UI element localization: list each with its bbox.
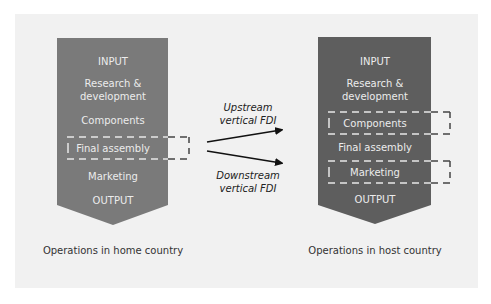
fdi-arrows: Upstream vertical FDI Downstream vertica… <box>207 102 281 194</box>
home-stage-marketing: Marketing <box>88 171 138 182</box>
home-stage-input: INPUT <box>98 56 129 67</box>
upstream-label-1: Upstream <box>224 102 273 113</box>
downstream-arrow <box>207 151 281 163</box>
host-country-value-chain: INPUT Research & development Components … <box>308 37 450 256</box>
downstream-label-1: Downstream <box>216 170 280 181</box>
host-stage-rd-2: development <box>342 91 408 102</box>
host-stage-output: OUTPUT <box>355 194 397 205</box>
upstream-arrow <box>207 130 281 142</box>
host-stage-input: INPUT <box>360 56 391 67</box>
home-caption: Operations in home country <box>43 245 183 256</box>
home-stage-rd-1: Research & <box>85 78 142 89</box>
host-stage-marketing: Marketing <box>350 167 400 178</box>
upstream-label-2: vertical FDI <box>220 115 277 126</box>
host-stage-components: Components <box>343 118 406 129</box>
host-stage-final-assembly: Final assembly <box>338 142 412 153</box>
host-stage-rd-1: Research & <box>347 78 404 89</box>
home-stage-components: Components <box>81 115 144 126</box>
downstream-label-2: vertical FDI <box>220 183 277 194</box>
vertical-fdi-diagram: INPUT Research & development Components … <box>0 0 491 304</box>
home-stage-final-assembly: Final assembly <box>76 143 150 154</box>
home-stage-output: OUTPUT <box>93 195 135 206</box>
home-stage-rd-2: development <box>80 91 146 102</box>
host-caption: Operations in host country <box>308 245 442 256</box>
home-country-value-chain: INPUT Research & development Components … <box>43 38 189 256</box>
